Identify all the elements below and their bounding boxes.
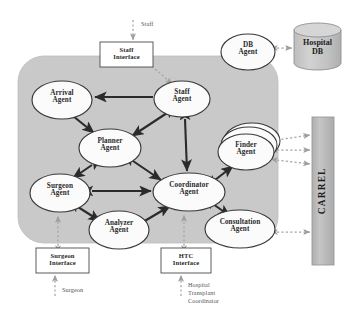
node-db-agent[interactable] — [221, 34, 275, 70]
carrel-bar[interactable] — [312, 117, 334, 265]
node-arrival-agent[interactable] — [32, 81, 92, 119]
node-analyzer-agent[interactable] — [89, 211, 149, 249]
box-htc-interface[interactable] — [161, 248, 211, 273]
connector-finder-agent-to-carrel-1 — [277, 135, 310, 140]
node-coordinator-agent[interactable] — [153, 173, 225, 211]
architecture-diagram: Arrival Agent Staff Agent Planner Agent … — [0, 0, 354, 316]
node-consultation-agent[interactable] — [205, 210, 275, 248]
node-finder-agent[interactable] — [218, 134, 274, 170]
box-surgeon-interface[interactable] — [36, 248, 89, 273]
node-staff-agent[interactable] — [154, 81, 210, 117]
hospital-db-cylinder[interactable] — [294, 23, 341, 70]
box-staff-interface[interactable] — [100, 42, 153, 67]
diagram-canvas — [0, 0, 354, 316]
connector-finder-agent-to-carrel-3 — [277, 160, 310, 164]
node-surgeon-agent[interactable] — [30, 174, 90, 212]
node-planner-agent[interactable] — [79, 129, 141, 167]
